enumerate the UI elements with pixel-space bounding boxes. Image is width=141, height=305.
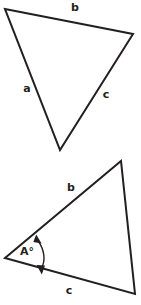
lower-triangle-side-label-b: b bbox=[67, 181, 75, 194]
lower-triangle-side-label-c: c bbox=[66, 284, 73, 297]
angle-label-A: A° bbox=[20, 245, 34, 258]
figure-background bbox=[0, 0, 141, 305]
upper-triangle-side-label-b: b bbox=[71, 1, 79, 14]
upper-triangle-side-label-c: c bbox=[103, 88, 110, 101]
triangle-diagram: b a c A° b c bbox=[0, 0, 141, 305]
figure-canvas: b a c A° b c bbox=[0, 0, 141, 305]
upper-triangle-side-label-a: a bbox=[23, 82, 30, 95]
